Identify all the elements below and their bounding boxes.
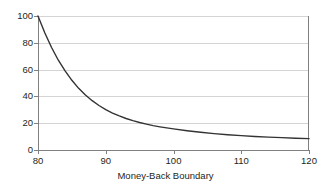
y-tick-label: 20 <box>3 118 33 128</box>
y-axis-ticks <box>34 17 38 151</box>
y-tick-label: 60 <box>3 65 33 75</box>
y-tick-label: 80 <box>3 38 33 48</box>
chart-container: 020406080100 8090100110120 Money-Back Bo… <box>0 0 331 196</box>
gridlines <box>38 17 309 124</box>
y-tick-label: 40 <box>3 91 33 101</box>
x-tick-label: 100 <box>159 156 189 166</box>
x-tick-label: 80 <box>23 156 53 166</box>
x-axis-title: Money-Back Boundary <box>0 170 331 181</box>
data-series-line <box>38 16 309 139</box>
y-tick-label: 100 <box>3 11 33 21</box>
x-tick-label: 120 <box>294 156 324 166</box>
x-tick-label: 110 <box>226 156 256 166</box>
y-tick-label: 0 <box>3 145 33 155</box>
chart-plot-area <box>0 0 331 196</box>
x-tick-label: 90 <box>91 156 121 166</box>
